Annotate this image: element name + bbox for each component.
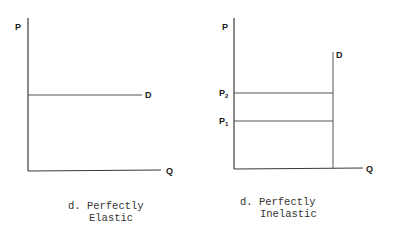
- x-axis-label: Q: [366, 164, 373, 174]
- x-axis: [234, 168, 363, 169]
- x-axis: [28, 170, 161, 171]
- caption-inelastic-line2: Inelastic: [260, 208, 317, 220]
- diagram-canvas: P Q D P Q D P2 P1: [0, 0, 397, 234]
- y-axis-label: P: [15, 22, 21, 32]
- price-label-p1: P1: [219, 116, 229, 127]
- panel-perfectly-inelastic: P Q D P2 P1: [219, 18, 373, 174]
- demand-label: D: [336, 50, 343, 60]
- caption-elastic-line1: d. Perfectly: [68, 200, 144, 212]
- demand-label: D: [145, 90, 152, 100]
- panel-perfectly-elastic: P Q D: [15, 18, 173, 176]
- price-label-p2: P2: [219, 88, 229, 99]
- x-axis-label: Q: [166, 166, 173, 176]
- caption-elastic-line2: Elastic: [89, 212, 133, 224]
- y-axis-label: P: [222, 22, 228, 32]
- caption-inelastic-line1: d. Perfectly: [240, 196, 316, 208]
